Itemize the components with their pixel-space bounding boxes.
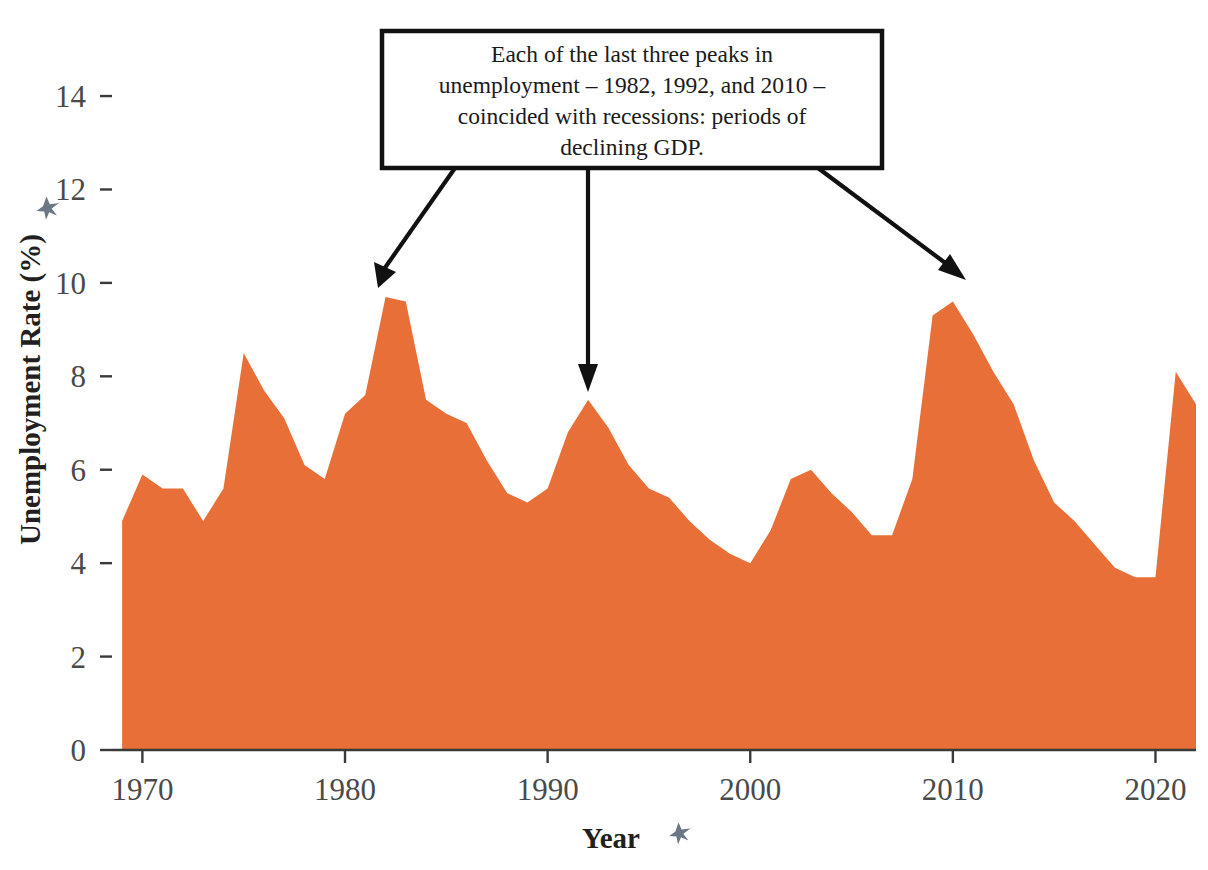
x-tick-label: 2020 — [1124, 772, 1186, 807]
annotation-line-1: Each of the last three peaks in — [491, 41, 773, 67]
y-tick-label: 2 — [71, 640, 87, 675]
x-tick-label: 1970 — [111, 772, 173, 807]
y-tick-label: 8 — [71, 359, 87, 394]
annotation-line-4: declining GDP. — [560, 134, 704, 160]
x-axis-title: Year — [582, 822, 640, 854]
chart-canvas: 02468101214 197019801990200020102020 Une… — [0, 0, 1208, 870]
y-tick-label: 6 — [71, 453, 87, 488]
y-tick-label: 10 — [55, 266, 86, 301]
annotation-line-3: coincided with recessions: periods of — [458, 103, 807, 129]
y-tick-label: 12 — [55, 172, 86, 207]
y-tick-label: 14 — [55, 79, 87, 114]
x-tick-label: 1990 — [517, 772, 579, 807]
x-tick-label: 1980 — [314, 772, 376, 807]
unemployment-area-chart: 02468101214 197019801990200020102020 Une… — [0, 0, 1208, 870]
annotation-line-2: unemployment – 1982, 1992, and 2010 – — [439, 72, 826, 98]
y-axis-title: Unemployment Rate (%) — [14, 234, 47, 545]
y-tick-label: 0 — [71, 733, 87, 768]
x-tick-label: 2010 — [922, 772, 984, 807]
y-tick-label: 4 — [71, 546, 87, 581]
x-tick-label: 2000 — [719, 772, 781, 807]
